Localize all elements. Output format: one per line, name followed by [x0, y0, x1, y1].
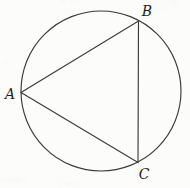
geometry-figure: A B C — [0, 0, 190, 188]
vertex-label-a: A — [3, 86, 15, 102]
vertex-label-b: B — [141, 3, 152, 19]
circumscribed-circle — [21, 11, 181, 171]
scanned-figure-page: .·: ·.··: :· ··. ·: :· ·.··:·.· .··:·· ·… — [0, 0, 190, 188]
vertex-label-c: C — [139, 166, 150, 182]
